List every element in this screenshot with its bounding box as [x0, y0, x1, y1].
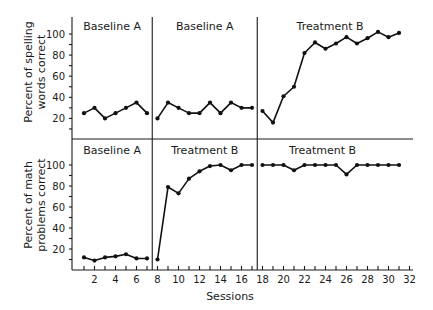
data-point — [397, 163, 401, 167]
data-point — [229, 100, 233, 104]
data-point — [155, 116, 159, 120]
data-point — [302, 51, 306, 55]
data-point — [218, 163, 222, 167]
x-axis-title: Sessions — [206, 290, 254, 303]
data-point — [176, 106, 180, 110]
data-point — [208, 164, 212, 168]
data-point — [166, 185, 170, 189]
x-tick-label: 16 — [235, 274, 248, 285]
data-point — [376, 163, 380, 167]
data-point — [82, 111, 86, 115]
x-tick-label: 32 — [403, 274, 416, 285]
data-point — [103, 116, 107, 120]
data-point — [355, 41, 359, 45]
x-tick-label: 24 — [319, 274, 332, 285]
y-axis-title-line: Percent of math — [22, 161, 35, 249]
data-point — [134, 100, 138, 104]
y-axis-title-line: Percent of spelling — [22, 21, 35, 123]
y-axis-title: Percent of mathproblems correct — [22, 158, 48, 252]
phase-label: Treatment B — [296, 20, 364, 33]
x-tick-label: 4 — [112, 274, 118, 285]
data-point — [124, 106, 128, 110]
y-axis-title-line: problems correct — [35, 158, 48, 252]
data-point — [239, 163, 243, 167]
phase-label: Baseline A — [176, 20, 234, 33]
data-point — [271, 121, 275, 125]
data-point — [250, 106, 254, 110]
data-point — [208, 100, 212, 104]
y-tick-label: 40 — [52, 92, 65, 103]
x-tick-label: 18 — [256, 274, 269, 285]
data-point — [271, 163, 275, 167]
data-point — [145, 111, 149, 115]
x-tick-label: 26 — [340, 274, 353, 285]
phase-label: Treatment B — [288, 144, 356, 157]
data-point — [365, 36, 369, 40]
data-point — [82, 255, 86, 259]
x-tick-label: 22 — [298, 274, 311, 285]
x-tick-label: 2 — [91, 274, 97, 285]
x-tick-label: 20 — [277, 274, 290, 285]
y-tick-label: 80 — [52, 181, 65, 192]
y-tick-label: 100 — [46, 29, 65, 40]
data-point — [218, 111, 222, 115]
panel-math: 20406080100Percent of mathproblems corre… — [22, 139, 401, 270]
y-tick-label: 80 — [52, 50, 65, 61]
y-tick-label: 20 — [52, 244, 65, 255]
data-point — [187, 111, 191, 115]
multiple-baseline-chart: 20406080100Percent of spellingwords corr… — [0, 0, 433, 310]
data-point — [386, 163, 390, 167]
y-axis-title: Percent of spellingwords correct — [22, 21, 48, 123]
data-point — [344, 35, 348, 39]
data-point — [376, 30, 380, 34]
data-point — [229, 168, 233, 172]
data-line — [263, 32, 400, 123]
data-point — [103, 255, 107, 259]
data-point — [250, 163, 254, 167]
data-point — [302, 163, 306, 167]
data-point — [187, 177, 191, 181]
x-tick-label: 30 — [382, 274, 395, 285]
data-point — [260, 109, 264, 113]
data-point — [197, 169, 201, 173]
data-point — [281, 94, 285, 98]
y-tick-label: 60 — [52, 71, 65, 82]
data-point — [92, 258, 96, 262]
data-point — [355, 163, 359, 167]
phase-label: Baseline A — [83, 144, 141, 157]
data-point — [239, 106, 243, 110]
data-point — [166, 100, 170, 104]
x-tick-label: 12 — [193, 274, 206, 285]
data-point — [292, 168, 296, 172]
phase-label: Baseline A — [83, 20, 141, 33]
data-line — [158, 103, 253, 119]
data-line — [158, 165, 253, 260]
data-point — [365, 163, 369, 167]
data-line — [84, 103, 147, 119]
data-point — [155, 257, 159, 261]
data-point — [176, 191, 180, 195]
data-point — [334, 41, 338, 45]
data-point — [134, 256, 138, 260]
data-point — [323, 47, 327, 51]
data-point — [113, 111, 117, 115]
data-point — [197, 111, 201, 115]
x-tick-label: 6 — [133, 274, 139, 285]
data-point — [145, 256, 149, 260]
data-point — [124, 252, 128, 256]
chart-canvas: 20406080100Percent of spellingwords corr… — [0, 0, 433, 310]
data-point — [386, 35, 390, 39]
x-tick-label: 10 — [172, 274, 185, 285]
data-point — [92, 106, 96, 110]
data-point — [313, 163, 317, 167]
x-tick-label: 8 — [154, 274, 160, 285]
data-point — [334, 163, 338, 167]
data-point — [113, 254, 117, 258]
y-tick-label: 20 — [52, 113, 65, 124]
data-point — [323, 163, 327, 167]
x-tick-label: 28 — [361, 274, 374, 285]
data-point — [260, 163, 264, 167]
panel-spelling: 20406080100Percent of spellingwords corr… — [22, 17, 401, 139]
data-point — [397, 31, 401, 35]
y-tick-label: 60 — [52, 202, 65, 213]
